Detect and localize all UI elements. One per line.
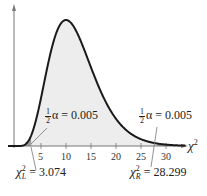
tick-label-10: 10 [61, 151, 71, 162]
left-critical-value: χ2L = 3.074 [16, 164, 66, 181]
right-alpha-annotation: 12α = 0.005 [139, 108, 192, 125]
central-area [31, 20, 157, 146]
x-axis-label: χ2 [188, 138, 198, 154]
right-leader-line [151, 127, 157, 167]
tick-label-25: 25 [136, 151, 146, 162]
tick-label-20: 20 [111, 151, 121, 162]
half-fraction: 12 [139, 108, 145, 125]
tick-label-30: 30 [161, 151, 171, 162]
half-fraction: 12 [45, 108, 51, 125]
left-alpha-annotation: 12α = 0.005 [45, 108, 98, 125]
right-critical-value: χ2R = 28.299 [130, 164, 186, 181]
tick-label-15: 15 [86, 151, 96, 162]
tick-label-5: 5 [38, 151, 43, 162]
y-axis-arrow-icon [12, 4, 16, 11]
